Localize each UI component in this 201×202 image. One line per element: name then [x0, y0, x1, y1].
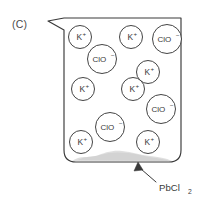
figure-panel-c: (C) K+K+ClO−ClO−K+K+K+ClO−ClO−K+K+ PbCl … — [0, 0, 201, 202]
ion-k-bubble: K+ — [120, 26, 143, 49]
ion-clo-bubble: ClO− — [88, 45, 117, 74]
ion-species-label: ClO — [152, 105, 166, 114]
beaker-diagram: K+K+ClO−ClO−K+K+K+ClO−ClO−K+K+ PbCl 2 — [0, 0, 201, 202]
ion-clo-bubble: ClO− — [147, 95, 176, 124]
ion-clo-bubble: ClO− — [96, 113, 125, 142]
ion-k-bubble: K+ — [70, 131, 93, 154]
ion-species-label: K — [144, 67, 150, 77]
ion-k-bubble: K+ — [69, 26, 92, 49]
ion-layer: K+K+ClO−ClO−K+K+K+ClO−ClO−K+K+ — [69, 25, 182, 154]
annotation-arrow-line — [141, 169, 156, 182]
ion-k-bubble: K+ — [122, 78, 145, 101]
ion-charge-label: + — [83, 30, 87, 37]
precipitate-label-subscript: 2 — [188, 188, 192, 195]
ion-species-label: K — [129, 84, 135, 94]
ion-k-bubble: K+ — [137, 131, 160, 154]
ion-species-label: K — [144, 137, 150, 147]
precipitate-label: PbCl — [159, 182, 180, 193]
ion-species-label: ClO — [101, 123, 115, 132]
ion-species-label: ClO — [93, 55, 107, 64]
ion-species-label: ClO — [158, 35, 172, 44]
ion-species-label: K — [127, 32, 133, 42]
ion-charge-label: + — [134, 30, 138, 37]
ion-k-bubble: K+ — [72, 78, 95, 101]
ion-charge-label: + — [86, 82, 90, 89]
ion-species-label: K — [76, 32, 82, 42]
precipitate-highlight — [78, 152, 170, 161]
ion-charge-label: + — [84, 135, 88, 142]
ion-species-label: K — [79, 84, 85, 94]
ion-charge-label: + — [151, 65, 155, 72]
ion-charge-label: − — [176, 32, 180, 39]
ion-charge-label: − — [111, 52, 115, 59]
ion-charge-label: − — [170, 102, 174, 109]
ion-species-label: K — [77, 137, 83, 147]
ion-charge-label: + — [151, 135, 155, 142]
ion-charge-label: + — [136, 82, 140, 89]
annotation-arrow-head — [134, 162, 143, 171]
ion-clo-bubble: ClO− — [153, 25, 182, 54]
ion-charge-label: − — [119, 120, 123, 127]
